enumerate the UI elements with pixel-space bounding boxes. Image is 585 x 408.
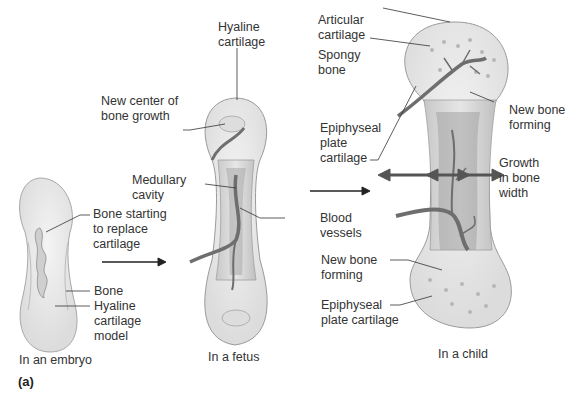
label-hyaline-cartilage: Hyaline cartilage (218, 20, 265, 50)
caption-fetus: In a fetus (208, 350, 259, 364)
label-new-center-of-bone-growth: New center of bone growth (101, 94, 178, 124)
label-hyaline-cartilage-model: Hyaline cartilage model (94, 299, 141, 344)
caption-child: In a child (438, 347, 488, 361)
label-new-bone-forming-bottom: New bone forming (321, 253, 377, 283)
label-blood-vessels: Blood vessels (320, 211, 362, 241)
label-spongy-bone: Spongy bone (318, 48, 360, 78)
fetus-bone (190, 98, 267, 345)
label-growth-in-bone-width: Growth in bone width (499, 156, 540, 201)
label-bone-starting-to-replace-cartilage: Bone starting to replace cartilage (93, 207, 167, 252)
label-medullary-cavity: Medullary cavity (132, 173, 186, 203)
label-bone-embryo: Bone (94, 284, 123, 299)
label-epiphyseal-plate-cartilage-top: Epiphyseal plate cartilage (320, 121, 381, 166)
caption-embryo: In an embryo (19, 353, 92, 367)
embryo-bone (20, 178, 77, 352)
label-epiphyseal-plate-cartilage-bottom: Epiphyseal plate cartilage (321, 298, 399, 328)
label-articular-cartilage: Articular cartilage (318, 13, 365, 43)
panel-label: (a) (18, 374, 34, 389)
label-new-bone-forming-top: New bone forming (509, 103, 565, 133)
bone-growth-illustration (0, 0, 585, 408)
